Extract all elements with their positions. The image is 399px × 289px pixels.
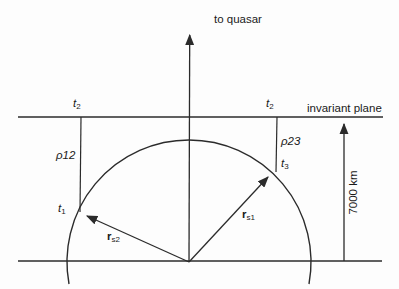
t2-left-sub: 2 <box>76 102 80 111</box>
rs2-label: rs2 <box>107 230 120 246</box>
rs1-sub: s1 <box>246 213 254 222</box>
t3-sub: 3 <box>284 162 288 171</box>
t1-sub: 1 <box>61 207 65 216</box>
rho23-label: ρ23 <box>281 135 300 148</box>
diagram-geometry <box>0 0 399 289</box>
rs2-sub: s2 <box>111 235 119 244</box>
rho12-sight-line <box>80 117 81 212</box>
rho23-sight-line <box>276 117 277 172</box>
quasar-geometry-diagram: to quasar invariant plane t2 t2 ρ12 ρ23 … <box>0 0 399 289</box>
t2-right-sub: 2 <box>269 102 273 111</box>
invariant-plane-label: invariant plane <box>307 102 382 115</box>
rs2-vector-arrow <box>87 216 189 262</box>
rs1-label: rs1 <box>242 208 255 224</box>
t3-label: t3 <box>281 157 289 173</box>
to-quasar-label: to quasar <box>214 13 262 26</box>
rs1-vector-arrow <box>189 177 268 262</box>
t2-left-label: t2 <box>73 97 81 113</box>
t1-label: t1 <box>58 202 66 218</box>
distance-7000km-label: 7000 km <box>347 163 360 223</box>
rho12-label: ρ12 <box>56 149 75 162</box>
to-quasar-arrow <box>189 35 190 262</box>
t2-right-label: t2 <box>266 97 274 113</box>
